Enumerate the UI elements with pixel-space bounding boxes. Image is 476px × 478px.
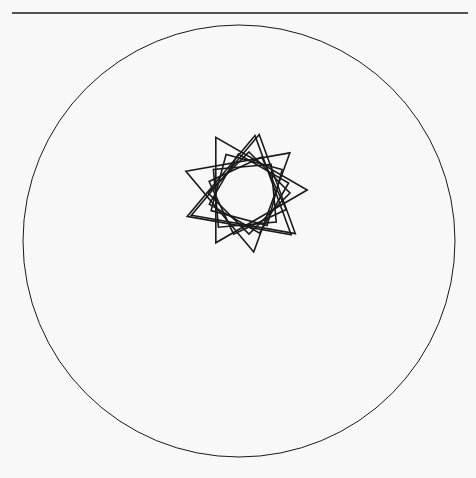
drawing-canvas	[0, 0, 476, 478]
background	[0, 0, 476, 478]
